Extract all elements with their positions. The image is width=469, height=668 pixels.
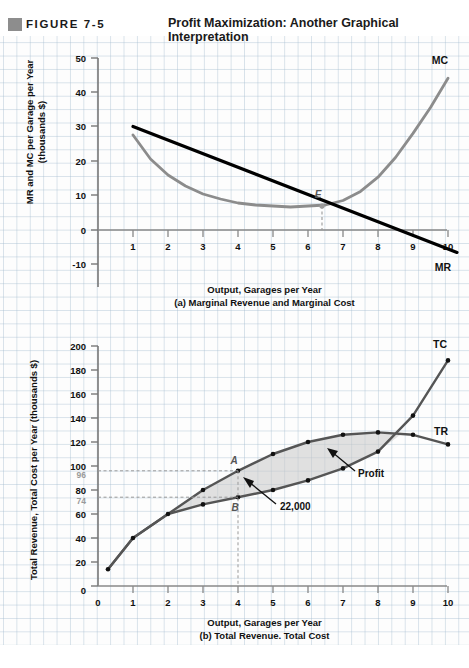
panel-b-ytick-0: 0 bbox=[81, 585, 86, 596]
panel-b-point-b-label: B bbox=[231, 502, 238, 513]
figure-title: Profit Maximization: Another Graphical I… bbox=[168, 16, 469, 44]
panel-a-xtick-6: 6 bbox=[305, 241, 310, 252]
panel-b-xtick-7: 7 bbox=[340, 597, 345, 608]
panel-b-profit-label: Profit bbox=[358, 468, 385, 479]
panel-b-caption: (b) Total Revenue. Total Cost bbox=[30, 629, 469, 642]
panel-b-ytick-160: 160 bbox=[70, 389, 86, 400]
panel-a-ytick-50: 50 bbox=[75, 53, 86, 64]
panel-a-svg: 50 40 30 20 10 0 -10 1 2 3 4 5 6 7 8 9 1… bbox=[0, 44, 469, 319]
panel-a-ytick-neg10: -10 bbox=[72, 259, 86, 270]
panel-b-xtick-2: 2 bbox=[165, 597, 170, 608]
panel-b-x-axis-label: Output, Garages per Year bbox=[30, 616, 469, 629]
figure-marker-square bbox=[8, 18, 22, 31]
panel-b-tr-label: TR bbox=[434, 425, 448, 437]
panel-a-mc-label: MC bbox=[432, 54, 449, 66]
panel-a-y-axis-label-line1: MR and MC per Garage per Year bbox=[24, 60, 35, 205]
panel-a-xtick-8: 8 bbox=[375, 241, 380, 252]
panel-b-tr-curve bbox=[108, 432, 448, 569]
panel-b-y-ticks: 200 180 160 140 120 100 80 60 40 20 0 96… bbox=[70, 341, 98, 596]
panel-b-ytick-180: 180 bbox=[70, 365, 86, 376]
panel-b-ytick-74: 74 bbox=[77, 496, 87, 506]
panel-b-xtick-1: 1 bbox=[130, 597, 136, 608]
panel-a-x-axis-label: Output, Garages per Year bbox=[30, 283, 469, 296]
panel-b-ytick-140: 140 bbox=[70, 413, 86, 424]
panel-b-ytick-20: 20 bbox=[75, 557, 86, 568]
panel-b-xtick-10: 10 bbox=[443, 597, 454, 608]
panel-a-chart: 50 40 30 20 10 0 -10 1 2 3 4 5 6 7 8 9 1… bbox=[0, 44, 469, 319]
panel-a-xtick-7: 7 bbox=[340, 241, 345, 252]
panel-a-ytick-20: 20 bbox=[75, 156, 86, 167]
panel-b-chart: 200 180 160 140 120 100 80 60 40 20 0 96… bbox=[0, 336, 469, 626]
panel-a-xtick-2: 2 bbox=[165, 241, 170, 252]
panel-a-ytick-40: 40 bbox=[75, 87, 86, 98]
panel-b-ytick-60: 60 bbox=[75, 509, 86, 520]
panel-a-xtick-9: 9 bbox=[410, 241, 415, 252]
panel-b-xtick-5: 5 bbox=[270, 597, 276, 608]
panel-a-caption: (a) Marginal Revenue and Marginal Cost bbox=[30, 296, 469, 309]
panel-a-xtick-1: 1 bbox=[130, 241, 136, 252]
panel-a-ytick-30: 30 bbox=[75, 121, 86, 132]
panel-a-equilibrium-point bbox=[319, 203, 324, 208]
panel-b-point-a-label: A bbox=[229, 455, 237, 466]
panel-a-y-ticks: 50 40 30 20 10 0 -10 bbox=[72, 53, 98, 270]
panel-b-ytick-200: 200 bbox=[70, 341, 86, 352]
panel-b-xtick-0: 0 bbox=[95, 597, 100, 608]
panel-a-mr-label: MR bbox=[435, 261, 452, 273]
panel-a-xtick-3: 3 bbox=[200, 241, 205, 252]
panel-b-xtick-8: 8 bbox=[375, 597, 380, 608]
panel-b-ytick-80: 80 bbox=[75, 485, 86, 496]
panel-b-ytick-96: 96 bbox=[77, 470, 87, 480]
panel-a-mr-line bbox=[133, 127, 457, 253]
figure-number-label: FIGURE 7-5 bbox=[26, 18, 105, 30]
panel-b-xtick-3: 3 bbox=[200, 597, 205, 608]
panel-b-gap-label: 22,000 bbox=[280, 501, 311, 512]
panel-b-x-ticks: 0 1 2 3 4 5 6 7 8 9 10 bbox=[95, 586, 453, 608]
panel-b-xtick-9: 9 bbox=[410, 597, 415, 608]
panel-b-svg: 200 180 160 140 120 100 80 60 40 20 0 96… bbox=[0, 336, 469, 626]
panel-b-xtick-6: 6 bbox=[305, 597, 310, 608]
panel-a-ytick-0: 0 bbox=[81, 225, 86, 236]
panel-b-y-axis-label: Total Revenue, Total Cost per Year (thou… bbox=[28, 340, 40, 600]
panel-a-y-axis-label-line2: (thousands $) bbox=[36, 101, 47, 163]
panel-b-tc-label: TC bbox=[433, 338, 447, 350]
panel-a-xtick-5: 5 bbox=[270, 241, 276, 252]
panel-a-equilibrium-label: E bbox=[315, 189, 322, 200]
bottom-white-margin bbox=[0, 645, 469, 668]
panel-a-ytick-10: 10 bbox=[75, 190, 86, 201]
panel-b-xtick-4: 4 bbox=[235, 597, 241, 608]
panel-b-ytick-40: 40 bbox=[75, 533, 86, 544]
panel-a-xtick-4: 4 bbox=[235, 241, 241, 252]
panel-a-y-axis-label: MR and MC per Garage per Year (thousands… bbox=[24, 42, 48, 222]
panel-b-ytick-120: 120 bbox=[70, 437, 86, 448]
